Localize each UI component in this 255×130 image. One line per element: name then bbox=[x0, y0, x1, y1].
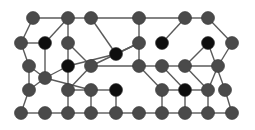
node-b8-gray bbox=[226, 37, 239, 50]
node-b3-gray bbox=[62, 37, 75, 50]
node-b7-black bbox=[202, 37, 215, 50]
node-c2-black bbox=[62, 60, 75, 73]
node-d2-gray bbox=[62, 84, 75, 97]
node-a6-gray bbox=[202, 12, 215, 25]
node-e6-gray bbox=[133, 107, 146, 120]
node-d3-gray bbox=[85, 84, 98, 97]
node-b6-black bbox=[156, 37, 169, 50]
node-d8-gray bbox=[219, 84, 232, 97]
node-e7-gray bbox=[156, 107, 169, 120]
node-c6-gray bbox=[179, 60, 192, 73]
node-d7-gray bbox=[202, 84, 215, 97]
node-b5-gray bbox=[133, 37, 146, 50]
node-e8-gray bbox=[179, 107, 192, 120]
node-a5-gray bbox=[179, 12, 192, 25]
node-c3-gray bbox=[85, 60, 98, 73]
node-d1-gray bbox=[23, 84, 36, 97]
node-a4-gray bbox=[133, 12, 146, 25]
node-d4-black bbox=[110, 84, 123, 97]
node-e4-gray bbox=[85, 107, 98, 120]
node-a2-gray bbox=[62, 12, 75, 25]
node-c7-gray bbox=[212, 60, 225, 73]
node-e3-gray bbox=[62, 107, 75, 120]
node-b2-black bbox=[39, 37, 52, 50]
node-e5-gray bbox=[110, 107, 123, 120]
node-c1-gray bbox=[23, 60, 36, 73]
node-d6-black bbox=[179, 84, 192, 97]
node-c4-gray bbox=[133, 60, 146, 73]
node-a1-gray bbox=[27, 12, 40, 25]
network-diagram bbox=[0, 0, 255, 130]
node-a3-gray bbox=[85, 12, 98, 25]
node-e1-gray bbox=[15, 107, 28, 120]
node-c5-gray bbox=[156, 60, 169, 73]
node-e9-gray bbox=[202, 107, 215, 120]
node-b1-gray bbox=[15, 37, 28, 50]
node-c8-gray bbox=[39, 72, 52, 85]
node-e10-gray bbox=[226, 107, 239, 120]
node-d5-gray bbox=[156, 84, 169, 97]
node-b4-black bbox=[110, 48, 123, 61]
node-e2-gray bbox=[39, 107, 52, 120]
